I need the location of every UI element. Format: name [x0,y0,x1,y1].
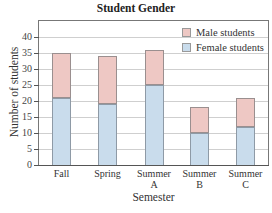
y-tick [34,117,39,118]
y-tick-label: 0 [8,160,32,170]
male-bar-segment [190,107,209,133]
y-tick [34,85,39,86]
x-tick-label: Fall [37,168,87,179]
chart-title: Student Gender [0,2,272,14]
legend-label-female: Female students [196,40,264,55]
female-bar-segment [145,85,164,166]
x-tick-label: SummerB [175,168,225,190]
y-tick [34,101,39,102]
x-tick-label: SummerA [129,168,179,190]
y-tick [34,149,39,150]
female-swatch-icon [182,43,191,52]
female-bar-segment [52,98,71,166]
x-tick-label: Spring [83,168,133,179]
male-bar-segment [52,53,71,98]
male-swatch-icon [182,28,191,37]
legend-label-male: Male students [196,25,255,40]
x-tick-label: SummerC [221,168,271,190]
female-bar-segment [190,133,209,166]
y-tick-label: 40 [8,32,32,42]
y-tick-label: 35 [8,48,32,58]
female-bar-segment [236,127,255,166]
x-axis-title: Semester [38,191,269,203]
legend-item-male: Male students [182,25,264,40]
x-axis-line [38,165,269,166]
y-tick-label: 20 [8,96,32,106]
male-bar-segment [98,56,117,104]
y-tick [34,37,39,38]
legend: Male students Female students [182,25,264,55]
y-tick-label: 25 [8,80,32,90]
y-tick [34,133,39,134]
y-tick-label: 10 [8,128,32,138]
y-tick-label: 5 [8,144,32,154]
y-tick [34,69,39,70]
y-tick [34,53,39,54]
female-bar-segment [98,104,117,166]
y-tick-label: 15 [8,112,32,122]
male-bar-segment [236,98,255,127]
y-tick-label: 30 [8,64,32,74]
legend-item-female: Female students [182,40,264,55]
male-bar-segment [145,50,164,85]
